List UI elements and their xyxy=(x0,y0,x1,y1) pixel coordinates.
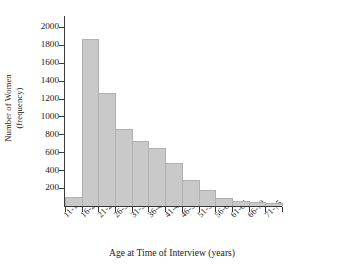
y-axis-tick xyxy=(59,81,64,82)
x-axis-tick-labels: 11-1516-2021-2526-3031-3536-4041-4546-50… xyxy=(0,213,344,247)
histogram-bar xyxy=(199,190,217,206)
x-axis-tick xyxy=(282,207,283,212)
histogram-bar xyxy=(148,148,166,206)
plot-area xyxy=(64,18,282,207)
y-axis-tick-label: 2000 xyxy=(41,22,59,31)
histogram-bar xyxy=(232,201,250,206)
y-axis-tick xyxy=(59,188,64,189)
y-axis-tick-label: 200 xyxy=(45,183,59,192)
y-axis-title-line1: Number of Women xyxy=(3,74,14,141)
x-axis-title: Age at Time of Interview (years) xyxy=(0,247,344,258)
histogram-bar xyxy=(82,39,100,206)
y-axis-tick-label: 600 xyxy=(45,148,59,157)
y-axis-tick-label: 400 xyxy=(45,166,59,175)
y-axis-tick-label: 800 xyxy=(45,130,59,139)
histogram-bar xyxy=(132,141,150,206)
y-axis-tick-label: 1600 xyxy=(41,58,59,67)
histogram-bar xyxy=(165,163,183,206)
y-axis-tick xyxy=(59,27,64,28)
histogram-bar xyxy=(265,203,283,206)
histogram-bar xyxy=(98,93,116,206)
histogram-bar xyxy=(65,197,83,206)
y-axis-tick-label: 1800 xyxy=(41,40,59,49)
histogram-bar xyxy=(249,202,267,206)
histogram-bar xyxy=(215,198,233,206)
y-axis-tick-label: 1400 xyxy=(41,76,59,85)
y-axis-tick-label: 1200 xyxy=(41,94,59,103)
y-axis-tick xyxy=(59,63,64,64)
y-axis-tick xyxy=(59,45,64,46)
y-axis-title-line2: (frequency) xyxy=(13,74,24,141)
y-axis-tick-label: 1000 xyxy=(41,112,59,121)
y-axis-tick xyxy=(59,116,64,117)
y-axis-title: Number of Women (frequency) xyxy=(0,0,26,216)
histogram-bar xyxy=(115,129,133,206)
y-axis-tick-labels: 200400600800100012001400160018002000 xyxy=(26,18,59,207)
y-axis-tick xyxy=(59,170,64,171)
y-axis-tick xyxy=(59,99,64,100)
y-axis-tick xyxy=(59,152,64,153)
y-axis-tick xyxy=(59,134,64,135)
histogram-bar xyxy=(182,180,200,206)
bars-group xyxy=(65,18,282,206)
histogram-figure: Number of Women (frequency) 200400600800… xyxy=(0,0,344,264)
